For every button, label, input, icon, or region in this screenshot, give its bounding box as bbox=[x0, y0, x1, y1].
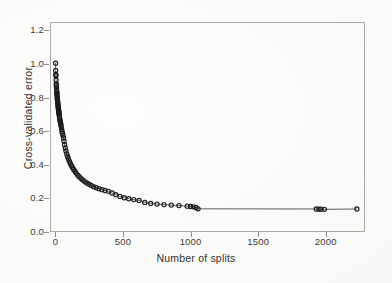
x-tick-mark bbox=[191, 232, 192, 237]
page-bleed-text bbox=[0, 272, 392, 283]
y-tick-mark bbox=[44, 98, 49, 99]
x-tick-label: 2000 bbox=[315, 237, 337, 247]
y-tick-mark bbox=[44, 232, 49, 233]
x-tick-mark bbox=[55, 232, 56, 237]
x-tick-label: 1500 bbox=[247, 237, 269, 247]
x-tick-mark bbox=[123, 232, 124, 237]
x-tick-mark bbox=[326, 232, 327, 237]
y-tick-label: 1.2 bbox=[30, 25, 44, 35]
x-tick-label: 0 bbox=[53, 237, 58, 247]
y-axis-title: Cross-validated error bbox=[22, 38, 34, 198]
x-axis-title: Number of splits bbox=[0, 252, 392, 264]
figure-container: 0.00.20.40.60.81.01.2 0500100015002000 C… bbox=[0, 0, 392, 283]
y-tick-label: 0.0 bbox=[30, 227, 44, 237]
y-tick-mark bbox=[44, 30, 49, 31]
y-tick-mark bbox=[44, 165, 49, 166]
data-series-canvas bbox=[50, 22, 365, 232]
y-tick-mark bbox=[44, 131, 49, 132]
x-tick-mark bbox=[258, 232, 259, 237]
x-tick-label: 1000 bbox=[180, 237, 202, 247]
series-layer bbox=[53, 61, 359, 211]
y-tick-mark bbox=[44, 64, 49, 65]
x-tick-label: 500 bbox=[115, 237, 131, 247]
plot-area bbox=[50, 22, 365, 232]
y-tick-mark bbox=[44, 198, 49, 199]
